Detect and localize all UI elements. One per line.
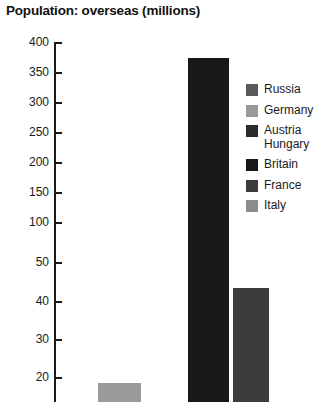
legend-item: Britain [246, 158, 325, 172]
y-tick-label: 200 [29, 156, 49, 168]
y-tick-label: 20 [36, 371, 49, 383]
chart-legend: RussiaGermanyAustria HungaryBritainFranc… [246, 83, 325, 220]
y-tick-label: 100 [29, 216, 49, 228]
y-tick-label: 30 [36, 333, 49, 345]
y-tick-mark [54, 72, 62, 74]
y-tick-mark [54, 377, 62, 379]
y-tick-mark [54, 132, 62, 134]
legend-swatch-icon [246, 105, 258, 117]
y-tick-mark [54, 192, 62, 194]
legend-swatch-icon [246, 200, 258, 212]
y-tick-label: 300 [29, 96, 49, 108]
y-tick-label: 40 [36, 295, 49, 307]
y-tick-label: 350 [29, 66, 49, 78]
y-tick-mark [54, 301, 62, 303]
y-tick-mark [54, 102, 62, 104]
population-overseas-chart: Population: overseas (millions) 40035030… [0, 0, 325, 402]
legend-label: Germany [264, 104, 313, 118]
y-tick-label: 250 [29, 126, 49, 138]
legend-item: Italy [246, 199, 325, 213]
bar-britain [188, 58, 229, 402]
legend-label: Italy [264, 199, 286, 213]
y-tick-mark [54, 262, 62, 264]
y-tick-mark [54, 42, 62, 44]
y-tick-mark [54, 162, 62, 164]
legend-item: France [246, 179, 325, 193]
legend-swatch-icon [246, 159, 258, 171]
legend-swatch-icon [246, 84, 258, 96]
legend-swatch-icon [246, 125, 258, 137]
y-tick-mark [54, 222, 62, 224]
legend-label: Austria Hungary [264, 124, 309, 151]
legend-label: Britain [264, 158, 298, 172]
y-tick-label: 400 [29, 36, 49, 48]
legend-item: Germany [246, 104, 325, 118]
legend-swatch-icon [246, 180, 258, 192]
y-tick-mark [54, 339, 62, 341]
bar-france [233, 288, 269, 402]
y-tick-label: 50 [36, 256, 49, 268]
y-tick-label: 150 [29, 186, 49, 198]
chart-title: Population: overseas (millions) [6, 3, 200, 18]
bar-germany [98, 383, 141, 402]
legend-item: Austria Hungary [246, 124, 325, 151]
legend-label: France [264, 179, 301, 193]
legend-label: Russia [264, 83, 301, 97]
legend-item: Russia [246, 83, 325, 97]
